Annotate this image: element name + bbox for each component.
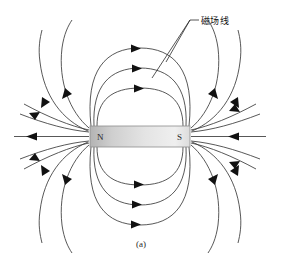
field-line-outer-bottom-right-2	[192, 142, 241, 243]
leader-line-branch-2	[166, 20, 190, 62]
arrow-icon-upper-right-1	[208, 88, 218, 99]
field-lines-annotation-label: 磁场线	[201, 14, 229, 27]
arrow-icon-lower-right-1	[208, 174, 218, 185]
arrow-icon-top-inner-1	[134, 85, 144, 93]
magnetic-field-figure: N S 磁场线 (a)	[0, 0, 282, 265]
arrow-icon-left-upper	[29, 112, 40, 120]
field-line-outer-bottom-left-1	[61, 145, 89, 253]
field-line-outer-bottom-right-1	[191, 145, 219, 253]
magnet-body-rect	[90, 126, 190, 147]
field-line-inner-bottom-1	[97, 147, 183, 185]
arrow-icon-top-inner-3	[131, 45, 141, 53]
south-pole-label: S	[177, 132, 182, 142]
annotation-leader-group	[152, 20, 199, 78]
north-pole-label: N	[97, 132, 104, 142]
arrow-icon-upper-left-2	[41, 97, 50, 108]
arrow-icon-bottom-inner-1	[134, 181, 144, 189]
arrow-icon-lower-left-2	[41, 165, 50, 176]
arrow-icon-left-lower	[29, 153, 40, 161]
field-line-outer-top-right-1	[191, 20, 219, 128]
field-line-outer-top-right-2	[192, 30, 241, 131]
bar-magnet: N S	[90, 126, 190, 147]
arrow-icon-bottom-inner-2	[132, 201, 142, 209]
arrow-icon-top-inner-2	[132, 65, 142, 73]
leader-line-branch-1	[152, 20, 190, 78]
figure-caption: (a)	[0, 239, 282, 249]
arrow-icon-upper-left-1	[62, 88, 72, 99]
field-line-inner-top-1	[97, 88, 183, 126]
field-line-outer-top-left-2	[39, 30, 88, 131]
arrow-icon-bottom-inner-3	[131, 221, 141, 229]
field-line-canvas: N S	[0, 0, 282, 265]
arrow-icon-left-axis	[26, 133, 37, 141]
arrow-icon-right-axis	[228, 133, 239, 141]
field-line-outer-bottom-left-2	[39, 142, 88, 243]
arrow-icon-lower-left-1	[62, 174, 72, 185]
field-line-outer-top-left-1	[61, 20, 89, 128]
